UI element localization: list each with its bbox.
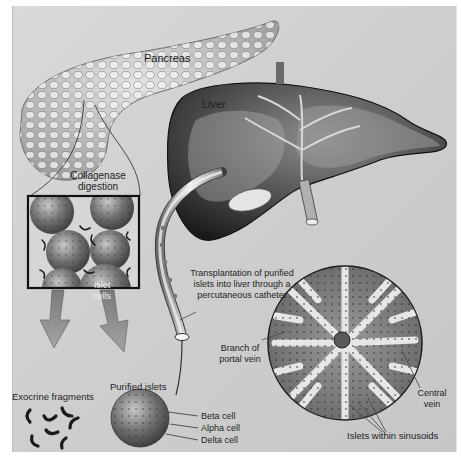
label-branch-portal-line1: Branch of (210, 343, 270, 354)
label-collagenase-line1: Collagenase (68, 170, 128, 181)
label-branch-portal-line2: portal vein (210, 354, 270, 365)
label-transplant-line1: Transplantation of purified (182, 268, 302, 279)
digestion-box (28, 186, 139, 316)
label-islet-cells-line1: Islet (86, 280, 118, 291)
label-transplant-line2: islets into liver through a (182, 279, 302, 290)
label-islets-sinusoids: Islets within sinusoids (347, 430, 438, 441)
label-beta-cell: Beta cell (201, 411, 236, 422)
label-delta-cell: Delta cell (201, 435, 238, 446)
arrow-exocrine (40, 290, 70, 348)
label-transplant-line3: percutaneous catheter (182, 290, 302, 301)
label-collagenase-line2: digestion (68, 181, 128, 192)
liver-organ (168, 62, 447, 240)
purified-islet (111, 389, 198, 447)
label-central-vein-line1: Central (412, 388, 452, 399)
label-exocrine-fragments: Exocrine fragments (12, 391, 94, 402)
label-alpha-cell: Alpha cell (201, 423, 240, 434)
label-pancreas: Pancreas (144, 53, 190, 64)
exocrine-fragments (27, 408, 78, 448)
label-purified-islets: Purified islets (110, 381, 167, 392)
label-liver: Liver (202, 99, 226, 110)
label-islet-cells-line2: cells (86, 291, 118, 302)
label-central-vein-line2: vein (412, 399, 452, 410)
